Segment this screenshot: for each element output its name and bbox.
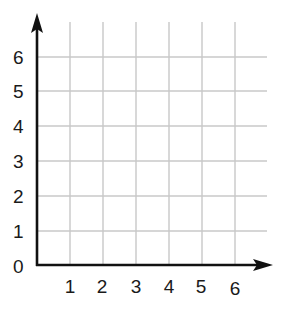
y-tick-label-2: 2: [13, 186, 24, 207]
x-tick-label-6: 6: [230, 278, 241, 299]
axes: [31, 13, 273, 271]
y-tick-label-3: 3: [13, 151, 24, 172]
y-tick-label-0: 0: [13, 256, 24, 277]
y-tick-label-6: 6: [13, 47, 24, 68]
y-tick-label-4: 4: [13, 116, 24, 137]
coordinate-grid: 0 1 2 3 4 5 6 1 2 3 4 5 6: [0, 0, 285, 310]
y-tick-label-5: 5: [13, 81, 24, 102]
x-tick-label-2: 2: [97, 276, 108, 297]
y-axis-labels: 0 1 2 3 4 5 6: [13, 47, 24, 277]
y-tick-label-1: 1: [13, 221, 24, 242]
x-tick-label-1: 1: [65, 276, 76, 297]
x-tick-label-5: 5: [196, 276, 207, 297]
x-tick-label-4: 4: [164, 276, 175, 297]
x-axis-labels: 1 2 3 4 5 6: [65, 276, 241, 299]
gridlines: [37, 22, 267, 265]
x-tick-label-3: 3: [131, 276, 142, 297]
